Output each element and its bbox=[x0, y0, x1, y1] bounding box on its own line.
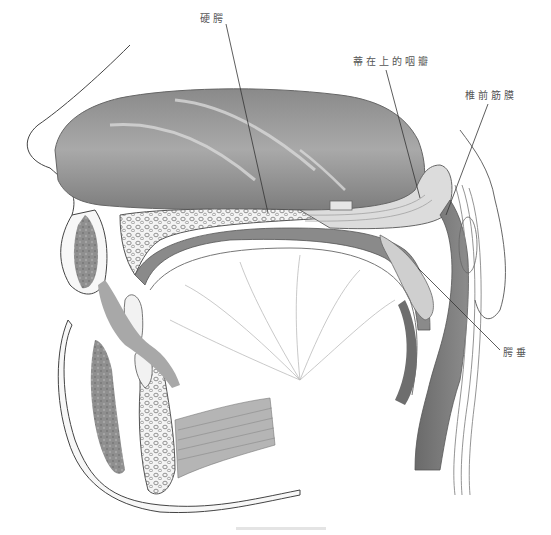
flap-suture-tab bbox=[330, 201, 352, 210]
label-prevertebral-fascia: 椎前筋膜 bbox=[465, 87, 517, 102]
anatomy-illustration bbox=[0, 0, 551, 535]
label-uvula: 腭垂 bbox=[503, 344, 529, 359]
nasal-turbinate-region bbox=[55, 89, 425, 210]
lower-lip-muscle bbox=[91, 340, 125, 474]
pharyngeal-wall bbox=[415, 200, 468, 470]
leader-line-prevertebral-fascia bbox=[446, 104, 488, 215]
figure-caption-faint bbox=[236, 527, 326, 530]
tongue-muscle-fibers bbox=[170, 255, 395, 380]
label-superiorly-based-pharyngeal-flap: 蒂在上的咽瓣 bbox=[353, 53, 431, 68]
label-hard-palate: 硬腭 bbox=[200, 10, 226, 25]
floor-of-mouth-muscle bbox=[175, 398, 275, 478]
